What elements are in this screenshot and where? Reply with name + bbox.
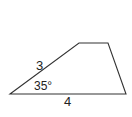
- base-length-label: 4: [64, 94, 71, 109]
- side-length-label: 3: [36, 58, 43, 73]
- trapezoid-diagram: 3 35° 4: [0, 0, 132, 117]
- angle-label: 35°: [34, 79, 52, 93]
- trapezoid-shape: [10, 43, 126, 94]
